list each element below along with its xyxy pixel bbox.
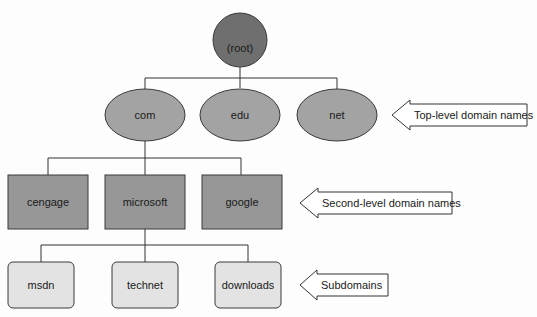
tld-node-com: com xyxy=(105,89,185,141)
callout-subdomains: Subdomains xyxy=(300,270,388,300)
callout-label: Top-level domain names xyxy=(414,109,534,121)
callout-top-level: Top-level domain names xyxy=(392,100,534,130)
sld-label: google xyxy=(225,196,258,208)
callout-label: Second-level domain names xyxy=(322,197,461,209)
callout-label: Subdomains xyxy=(321,279,383,291)
sub-node-msdn: msdn xyxy=(8,262,74,308)
sub-label: technet xyxy=(127,279,163,291)
sld-label: microsoft xyxy=(123,196,168,208)
dns-hierarchy-diagram: (root) com edu net cengage microsoft goo… xyxy=(0,0,537,317)
sld-node-cengage: cengage xyxy=(8,175,88,229)
root-node: (root) xyxy=(213,13,267,67)
sub-node-downloads: downloads xyxy=(215,262,281,308)
tld-label: com xyxy=(135,109,156,121)
sub-label: downloads xyxy=(222,279,275,291)
sub-label: msdn xyxy=(28,279,55,291)
sld-label: cengage xyxy=(27,196,69,208)
tld-node-net: net xyxy=(297,89,377,141)
diagram-svg: (root) com edu net cengage microsoft goo… xyxy=(0,0,537,317)
sld-node-google: google xyxy=(202,175,282,229)
callout-second-level: Second-level domain names xyxy=(300,188,461,218)
sld-node-microsoft: microsoft xyxy=(105,175,185,229)
tld-label: edu xyxy=(231,109,249,121)
root-label: (root) xyxy=(227,42,253,54)
connector-lines xyxy=(41,67,337,262)
tld-label: net xyxy=(329,109,344,121)
tld-node-edu: edu xyxy=(200,89,280,141)
sub-node-technet: technet xyxy=(112,262,178,308)
